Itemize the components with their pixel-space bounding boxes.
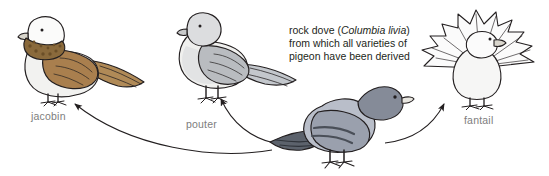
caption-line-1: rock dove (Columbia livia) [289, 24, 439, 37]
jacobin-illustration [8, 8, 153, 108]
rock-dove-illustration [262, 72, 417, 176]
scientific-name: Columbia livia [341, 24, 406, 36]
label-pouter: pouter [186, 118, 217, 130]
arrow-to-jacobin [75, 104, 272, 153]
label-fantail: fantail [464, 114, 493, 126]
caption-line-2: from which all varieties of [289, 37, 439, 50]
label-jacobin: jacobin [31, 110, 66, 122]
rock-dove-caption: rock dove (Columbia livia) from which al… [289, 24, 439, 64]
caption-line-1-post: ) [406, 24, 410, 36]
pigeon-breeds-figure: jacobin pouter [0, 0, 549, 176]
caption-line-3: pigeon have been derived [289, 50, 439, 63]
caption-line-1-pre: rock dove ( [289, 24, 341, 36]
